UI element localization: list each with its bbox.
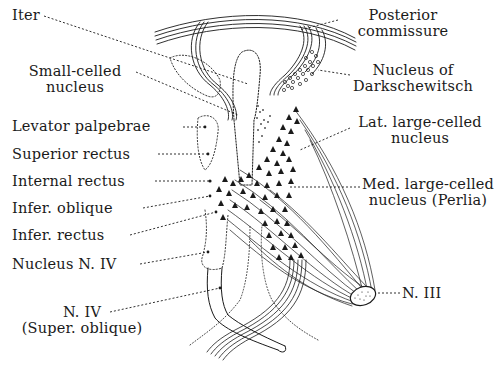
label-n4-super-oblique: N. IV (Super. oblique) xyxy=(12,304,152,336)
label-superior-rectus: Superior rectus xyxy=(12,146,130,162)
label-levator-palpebrae: Levator palpebrae xyxy=(12,118,150,134)
label-med-large-celled-nucleus: Med. large-celled nucleus (Perlia) xyxy=(358,176,498,208)
label-infer-oblique: Infer. oblique xyxy=(12,200,113,216)
n3-stump xyxy=(348,283,379,309)
label-small-celled-nucleus: Small-celled nucleus xyxy=(12,63,138,95)
label-nucleus-of-darkschewitsch: Nucleus of Darkschewitsch xyxy=(348,62,478,94)
label-n3: N. III xyxy=(402,285,441,301)
darkschewitsch-cells xyxy=(282,50,319,91)
small-celled-outline xyxy=(170,55,220,97)
label-internal-rectus: Internal rectus xyxy=(12,173,125,189)
trochlear-nerve xyxy=(207,268,286,352)
small-celled-stipple xyxy=(256,105,271,143)
label-posterior-commissure: Posterior commissure xyxy=(338,7,468,39)
leader-endpoints xyxy=(204,126,222,290)
label-infer-rectus: Infer. rectus xyxy=(12,227,104,243)
levator-outline xyxy=(197,116,218,170)
oculomotor-nuclei-diagram: Iter Small-celled nucleus Levator palpeb… xyxy=(0,0,504,373)
label-iter: Iter xyxy=(12,7,40,23)
label-lat-large-celled-nucleus: Lat. large-celled nucleus xyxy=(350,114,490,146)
label-nucleus-n4: Nucleus N. IV xyxy=(12,256,117,272)
